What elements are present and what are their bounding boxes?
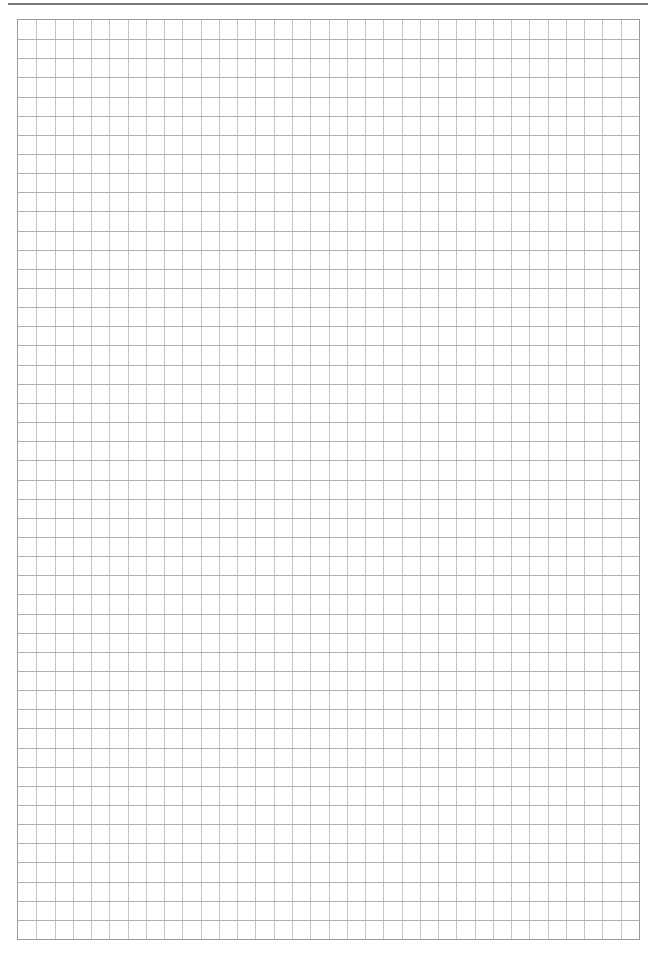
graph-paper-grid [17, 19, 640, 940]
grid-lines [18, 20, 639, 939]
running-header-rule [8, 3, 648, 5]
